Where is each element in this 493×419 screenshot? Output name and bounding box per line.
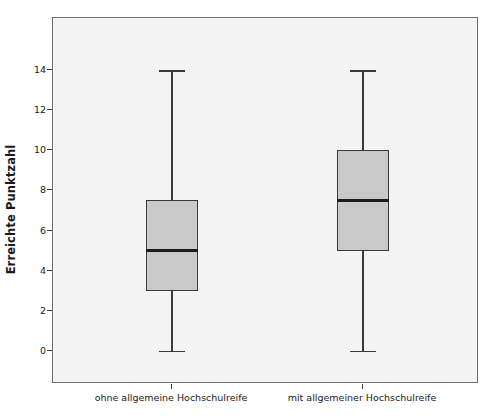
whisker-lower-line xyxy=(362,251,364,351)
y-axis-tick-label: 8 xyxy=(24,184,46,195)
x-axis-tick-mark xyxy=(171,384,172,389)
x-axis-tick-label: mit allgemeiner Hochschulreife xyxy=(288,392,437,403)
plot-inner xyxy=(53,18,477,382)
y-axis-tick-label: 0 xyxy=(24,344,46,355)
boxplot-2 xyxy=(53,18,477,382)
y-axis-tick-label: 10 xyxy=(24,144,46,155)
y-axis-title: Erreichte Punktzahl xyxy=(0,0,22,419)
whisker-cap-upper xyxy=(350,70,376,72)
median-line xyxy=(337,199,389,202)
y-axis-tick-labels: 02468101214 xyxy=(24,0,46,419)
y-axis-tick-label: 12 xyxy=(24,104,46,115)
whisker-upper-line xyxy=(362,70,364,150)
y-axis-tick-label: 6 xyxy=(24,224,46,235)
boxplot-figure: Erreichte Punktzahl 02468101214 ohne all… xyxy=(0,0,493,419)
y-axis-tick-label: 4 xyxy=(24,264,46,275)
y-axis-tick-label: 2 xyxy=(24,304,46,315)
y-axis-tick-label: 14 xyxy=(24,64,46,75)
x-axis-tick-label: ohne allgemeine Hochschulreife xyxy=(95,392,248,403)
plot-area xyxy=(52,17,478,383)
x-axis-tick-mark xyxy=(362,384,363,389)
whisker-cap-lower xyxy=(350,351,376,353)
